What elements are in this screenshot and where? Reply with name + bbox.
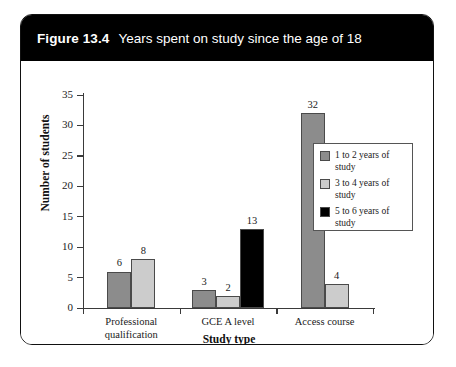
- bar-value-label: 8: [125, 245, 161, 256]
- y-axis-tick-label: 10: [33, 240, 73, 252]
- legend-item-label: 3 to 4 years of study: [335, 178, 407, 201]
- chart-legend: 1 to 2 years of study3 to 4 years of stu…: [313, 143, 413, 231]
- figure-number-label: Figure 13.4: [37, 31, 109, 46]
- x-axis-title: Study type: [83, 333, 375, 345]
- legend-item: 1 to 2 years of study: [320, 150, 407, 173]
- x-axis-tick: [276, 308, 277, 314]
- bar: [325, 284, 349, 308]
- chart-canvas: 05101520253035 Number of students 683213…: [21, 61, 433, 345]
- legend-item-label: 1 to 2 years of study: [335, 150, 407, 173]
- y-axis-title: Number of students: [39, 93, 51, 233]
- x-axis-tick: [83, 308, 84, 314]
- legend-swatch-icon: [320, 151, 330, 161]
- category-label-line: Access course: [264, 315, 385, 328]
- bar-value-label: 4: [319, 270, 355, 281]
- legend-item-label: 5 to 6 years of study: [335, 206, 407, 229]
- figure-title: Years spent on study since the age of 18: [118, 31, 361, 46]
- x-axis-category-label: Access course: [264, 315, 385, 328]
- y-axis-tick-label: 5: [33, 271, 73, 283]
- bar-value-label: 32: [295, 99, 331, 110]
- legend-swatch-icon: [320, 179, 330, 189]
- x-axis-tick: [180, 308, 181, 314]
- legend-swatch-icon: [320, 207, 330, 217]
- legend-item: 3 to 4 years of study: [320, 178, 407, 201]
- bar: [240, 229, 264, 308]
- legend-item: 5 to 6 years of study: [320, 206, 407, 229]
- x-axis-tick: [373, 308, 374, 314]
- figure-header: Figure 13.4 Years spent on study since t…: [21, 15, 433, 61]
- bar: [107, 272, 131, 309]
- bar: [131, 259, 155, 308]
- figure-frame: Figure 13.4 Years spent on study since t…: [20, 14, 434, 345]
- y-axis-tick-label: 0: [33, 301, 73, 313]
- bar: [216, 296, 240, 308]
- bar-value-label: 13: [234, 215, 270, 226]
